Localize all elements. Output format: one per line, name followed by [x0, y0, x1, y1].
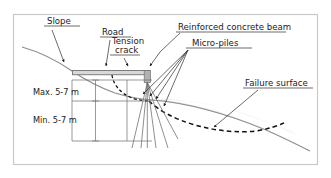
- label-failure-surface: Failure surface: [245, 78, 308, 88]
- micro-pile-left-inner: [141, 83, 147, 149]
- micro-pile-right-inner: [147, 83, 156, 149]
- sliding-mass-fill: [150, 99, 298, 135]
- slope-leader: [52, 30, 64, 62]
- failure-surface-leader: [214, 90, 258, 127]
- micro-piles-leader-1: [150, 50, 188, 96]
- tension-crack-leader: [124, 58, 128, 66]
- tension-crack-line: [112, 75, 149, 101]
- label-reinforced-concrete-beam: Reinforced concrete beam: [178, 22, 291, 32]
- label-slope: Slope: [47, 16, 71, 26]
- road-surface: [73, 71, 150, 75]
- micro-piles-leader-2: [156, 50, 188, 99]
- dim-label-max: Max. 5-7 m: [33, 87, 79, 97]
- dim-label-min: Min. 5-7 m: [33, 115, 77, 125]
- label-micro-piles: Micro-piles: [192, 38, 239, 48]
- micro-piles-leader-3: [164, 50, 188, 106]
- label-tension-crack-line2: crack: [115, 45, 138, 55]
- figure-container: Max. 5-7 m Min. 5-7 m: [0, 0, 331, 178]
- reinforced-concrete-beam: [144, 71, 150, 83]
- beam-leader: [150, 33, 180, 66]
- road-leader: [106, 40, 110, 66]
- cross-section-diagram: Max. 5-7 m Min. 5-7 m: [0, 0, 331, 178]
- sliding-mass-fill-upper: [150, 99, 262, 128]
- failure-surface-line: [149, 101, 286, 132]
- dimension-lines: [72, 80, 152, 141]
